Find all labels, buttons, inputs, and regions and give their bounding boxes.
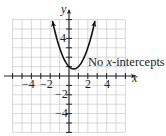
x-axis-label: x (131, 71, 138, 85)
x-tick-label-4: 4 (104, 77, 110, 91)
annotation-suffix: -intercepts (112, 55, 165, 69)
x-tick-label-neg2: −2 (40, 77, 53, 91)
x-tick-label-2: 2 (85, 77, 91, 91)
annotation-prefix: No (88, 55, 106, 69)
y-axis-label: y (60, 2, 67, 16)
y-tick-label-neg2: −2 (55, 87, 68, 101)
y-tick-label-4: 4 (60, 31, 66, 45)
x-tick-label-neg4: −4 (22, 77, 35, 91)
y-tick-label-neg4: −4 (55, 106, 68, 120)
curve-arrowheads (51, 21, 96, 27)
graph-canvas: −4 −2 2 4 4 −2 −4 x y No x-intercepts (0, 0, 166, 136)
no-x-intercepts-annotation: No x-intercepts (88, 55, 165, 69)
